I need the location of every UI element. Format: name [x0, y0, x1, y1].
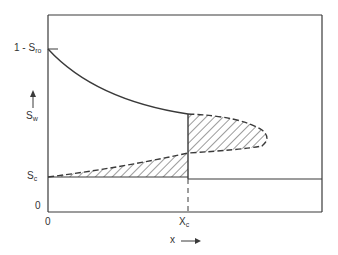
right-arrow-icon [181, 238, 201, 244]
x-tick-sub: c [186, 221, 190, 228]
y-tick-main: 1 - S [14, 42, 35, 53]
y-tick-sub: c [34, 175, 38, 182]
hatched-region-below-front [48, 153, 188, 177]
x-axis-label: x [170, 234, 175, 245]
x-tick-main: 0 [45, 216, 51, 227]
x-label-main: x [170, 234, 175, 245]
upper-saturation-curve [48, 49, 188, 114]
x-tick-label-xc: Xc [179, 216, 189, 227]
x-tick-main: X [179, 216, 186, 227]
y-tick-main: S [27, 170, 34, 181]
y-label-main: S [26, 110, 33, 121]
y-label-sub: w [33, 115, 38, 122]
y-tick-label-sc: Sc [27, 170, 37, 181]
y-tick-main: 0 [35, 200, 41, 211]
x-tick-label-0: 0 [45, 216, 51, 227]
up-arrow-icon [30, 90, 36, 108]
y-tick-label-1-sro: 1 - Sro [14, 42, 41, 53]
y-tick-label-0: 0 [35, 200, 41, 211]
y-axis-label: Sw [26, 110, 38, 121]
y-tick-sub: ro [35, 47, 41, 54]
